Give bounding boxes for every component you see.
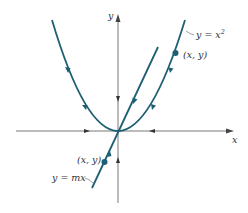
line-point-label: (x, y): [77, 154, 101, 165]
line-label-leader: [85, 178, 93, 183]
parabola-flow-arrow-icon: [82, 105, 88, 110]
x-axis-flow-arrow-left-icon: [84, 129, 90, 133]
y-axis-flow-arrow-top-icon: [116, 96, 120, 102]
parabola-equation-label: y = x2: [195, 28, 225, 40]
line-point-marker: [102, 159, 108, 165]
parabola-point-marker: [173, 50, 179, 56]
diagram-canvas: y x y = x2 (x, y) (x, y) y = mx: [0, 0, 248, 213]
line-flow-arrow-icon: [133, 98, 138, 105]
parabola-point-label: (x, y): [183, 49, 207, 60]
line-equation-label: y = mx: [51, 172, 86, 183]
x-axis-arrow-icon: [226, 129, 234, 134]
x-axis-flow-arrow-right-icon: [149, 129, 155, 133]
y-axis-label: y: [107, 10, 114, 21]
axes: [16, 14, 234, 203]
parabola-flow-arrow-icon: [151, 104, 156, 110]
line-curve: [92, 47, 158, 188]
parabola-equation-exponent: 2: [220, 28, 225, 36]
y-axis-arrow-icon: [116, 14, 121, 22]
parabola-flow-arrow-icon: [169, 68, 174, 74]
parabola-equation-lhs: y = x: [195, 29, 221, 40]
parabola-curve: [52, 20, 185, 131]
y-axis-flow-arrow-bottom-icon: [116, 157, 120, 163]
x-axis-label: x: [232, 134, 238, 145]
parabola-label-leader: [186, 31, 194, 35]
